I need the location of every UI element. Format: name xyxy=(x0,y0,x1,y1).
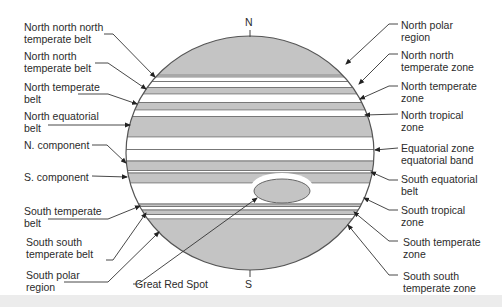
band-seb-s-component xyxy=(100,173,400,184)
label-nn-temperate-belt: North north temperate belt xyxy=(24,50,91,74)
planet-disc xyxy=(100,36,400,280)
band-s-tropical-zone xyxy=(100,184,400,204)
band-nnn-belt xyxy=(100,74,400,77)
jupiter-band-diagram: N S North north north temperate belt Nor… xyxy=(0,0,502,307)
label-n-polar-region: North polar region xyxy=(401,19,453,43)
north-pole-label: N xyxy=(245,16,253,28)
label-nn-temperate-zone: North north temperate zone xyxy=(401,49,474,73)
band-nnn-zone xyxy=(100,78,400,81)
label-s-temperate-belt: South temperate belt xyxy=(24,205,102,229)
band-n-equatorial-belt xyxy=(100,116,400,137)
band-n-tropical-zone xyxy=(100,111,400,117)
label-great-red-spot: Great Red Spot xyxy=(135,278,208,290)
band-n-temperate-belt xyxy=(100,102,400,110)
label-n-equatorial-belt: North equatorial belt xyxy=(24,110,99,134)
label-s-equatorial-belt: South equatorial belt xyxy=(401,173,477,197)
band-s-temperate-zone xyxy=(100,207,400,210)
label-ss-temperate-zone: South south temperate zone xyxy=(403,270,476,294)
band-n-temperate-zone xyxy=(100,95,400,103)
label-ss-temperate-belt: South south temperate belt xyxy=(26,236,93,260)
label-nnn-temperate-belt: North north north temperate belt xyxy=(24,21,103,45)
label-n-temperate-belt: North temperate belt xyxy=(24,81,100,105)
band-equatorial-band xyxy=(100,149,400,150)
label-s-polar-region: South polar region xyxy=(26,269,80,293)
band-seb-n-component xyxy=(100,161,400,171)
south-pole-label: S xyxy=(245,278,252,290)
label-n-temperate-zone: North temperate zone xyxy=(401,80,477,104)
label-s-tropical-zone: South tropical zone xyxy=(401,204,465,228)
band-stack xyxy=(100,74,400,280)
band-nn-temperate-zone xyxy=(100,82,400,87)
label-n-tropical-zone: North tropical zone xyxy=(401,109,463,133)
great-red-spot xyxy=(251,173,313,203)
label-s-temperate-zone: South temperate zone xyxy=(403,236,481,260)
bottom-border-strip xyxy=(0,295,502,307)
label-n-component: N. component xyxy=(24,139,89,151)
label-equatorial-zone: Equatorial zone equatorial band xyxy=(401,142,474,166)
label-s-component: S. component xyxy=(24,171,89,183)
